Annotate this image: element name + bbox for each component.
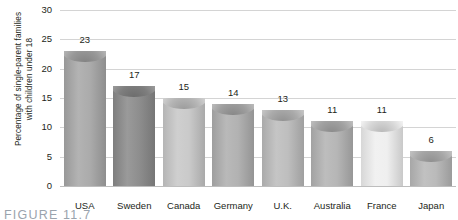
y-axis-tick-labels: 051015202530	[0, 10, 60, 186]
bar-group: 23	[64, 10, 106, 186]
bar-body	[113, 86, 155, 186]
bar[interactable]	[163, 98, 205, 186]
bar-body	[163, 98, 205, 186]
x-axis-category-label: Japan	[407, 200, 457, 211]
figure-container: Percentage of single-parent families wit…	[0, 0, 458, 220]
x-axis-category-label: Canada	[159, 200, 209, 211]
y-tick-label: 30	[30, 4, 52, 15]
y-tick-label: 15	[30, 92, 52, 103]
bar-value-label: 14	[212, 87, 254, 98]
x-axis-category-label: U.K.	[258, 200, 308, 211]
bar-value-label: 11	[311, 104, 353, 115]
figure-caption: FIGURE 11.7	[4, 208, 91, 220]
bar-group: 6	[410, 10, 452, 186]
bar-value-label: 15	[163, 81, 205, 92]
bar-value-label: 17	[113, 69, 155, 80]
bar-group: 14	[212, 10, 254, 186]
axis-baseline	[60, 186, 456, 187]
bar-value-label: 23	[64, 34, 106, 45]
x-axis-category-label: Germany	[209, 200, 259, 211]
y-tick-label: 25	[30, 33, 52, 44]
bar-value-label: 11	[361, 104, 403, 115]
y-tick-label: 5	[30, 151, 52, 162]
bar-body	[212, 104, 254, 186]
y-tick-label: 0	[30, 180, 52, 191]
bar[interactable]	[212, 104, 254, 186]
bar-group: 13	[262, 10, 304, 186]
bar[interactable]	[113, 86, 155, 186]
bar-value-label: 6	[410, 134, 452, 145]
bar[interactable]	[361, 121, 403, 186]
x-axis-category-label: Australia	[308, 200, 358, 211]
bar-group: 15	[163, 10, 205, 186]
bar[interactable]	[410, 151, 452, 186]
bar-value-label: 13	[262, 93, 304, 104]
x-axis-category-label: Sweden	[110, 200, 160, 211]
x-axis-category-label: France	[357, 200, 407, 211]
bar-series: 23USA17Sweden15Canada14Germany13U.K.11Au…	[60, 10, 456, 186]
y-tick-label: 20	[30, 63, 52, 74]
bar-body	[262, 110, 304, 186]
bar-body	[64, 51, 106, 186]
bar-group: 17	[113, 10, 155, 186]
bar-group: 11	[361, 10, 403, 186]
y-tick-label: 10	[30, 121, 52, 132]
bar[interactable]	[262, 110, 304, 186]
bar-group: 11	[311, 10, 353, 186]
bar[interactable]	[311, 121, 353, 186]
bar[interactable]	[64, 51, 106, 186]
